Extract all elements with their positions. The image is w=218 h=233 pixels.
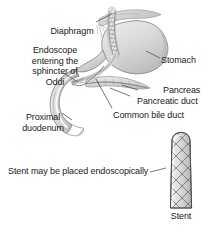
label-pancreatic-duct: Pancreatic duct	[137, 96, 218, 107]
label-endoscope-sphincter-of-oddi: Endoscope entering the sphincter of Oddi	[10, 45, 100, 87]
label-stomach: Stomach	[161, 55, 217, 66]
leader-pancreas	[122, 85, 138, 90]
leader-pancreatic-duct	[110, 88, 130, 96]
leader-diaphragm	[96, 14, 112, 22]
label-proximal-duodenum: Proximal duodenum	[12, 112, 74, 133]
leader-stomach	[146, 51, 160, 58]
label-common-bile-duct: Common bile duct	[113, 110, 213, 121]
label-pancreas: Pancreas	[163, 85, 218, 96]
label-diaphragm: Diaphragm	[36, 26, 108, 37]
figure-root: Diaphragm Endoscope entering the sphinct…	[0, 0, 218, 233]
label-stent: Stent	[158, 211, 204, 222]
label-stent-note: Stent may be placed endoscopically	[8, 166, 168, 177]
